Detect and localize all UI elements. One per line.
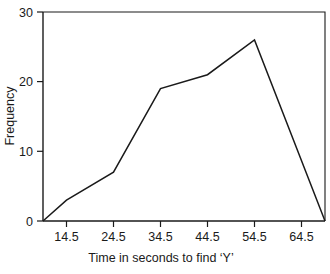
y-axis-title: Frequency (3, 86, 17, 146)
y-tick-label-0: 0 (26, 215, 33, 229)
frequency-polygon-chart: 0 10 20 30 14.5 24.5 34.5 44.5 54.5 64.5… (0, 0, 330, 274)
x-tick-label-64-5: 64.5 (289, 230, 313, 244)
x-tick-label-34-5: 34.5 (148, 230, 172, 244)
y-tick-label-20: 20 (19, 75, 33, 89)
x-tick-label-14-5: 14.5 (54, 230, 78, 244)
y-tick-label-30: 30 (19, 6, 33, 20)
x-tick-label-44-5: 44.5 (195, 230, 219, 244)
x-axis-title: Time in seconds to find ‘Y’ (88, 251, 233, 265)
chart-canvas: 0 10 20 30 14.5 24.5 34.5 44.5 54.5 64.5… (0, 0, 330, 274)
x-tick-label-54-5: 54.5 (242, 230, 266, 244)
frequency-polygon-line (43, 40, 325, 221)
x-tick-label-24-5: 24.5 (101, 230, 125, 244)
y-tick-label-10: 10 (19, 145, 33, 159)
